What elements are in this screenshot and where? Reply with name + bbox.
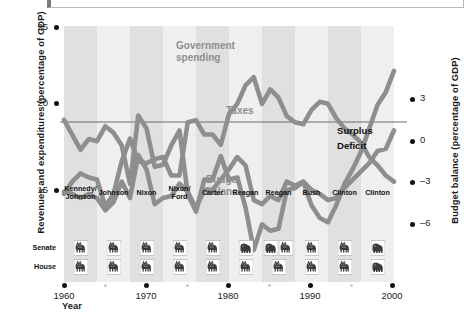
series-label-taxes: Taxes — [226, 105, 254, 117]
y-left-tick-label-15: 15 — [8, 184, 48, 195]
y-right-tick-label-3: 3 — [420, 92, 460, 103]
democrat-icon — [279, 240, 293, 256]
democrat-icon — [338, 240, 352, 256]
y-left-tick-dot-20 — [54, 101, 59, 106]
y-right-tick-dot-0 — [410, 139, 415, 144]
chamber-label-house: House — [12, 262, 56, 271]
democrat-icon — [74, 240, 88, 256]
x-tick-label-1960: 1960 — [41, 290, 87, 301]
x-tick-dot-1970 — [144, 283, 149, 288]
y-left-tick-dot-15 — [54, 188, 59, 193]
republican-icon — [371, 259, 385, 275]
democrat-icon — [305, 240, 319, 256]
x-tick-dot-1960 — [62, 283, 67, 288]
caption-box-fragment — [47, 0, 464, 8]
x-tick-label-2000: 2000 — [369, 290, 415, 301]
chamber-label-senate: Senate — [12, 243, 56, 252]
republican-icon — [239, 240, 253, 256]
x-tick-dot-1980 — [226, 283, 231, 288]
x-tick-dot-2000 — [390, 283, 395, 288]
y-right-tick-label-neg3: –3 — [420, 175, 460, 186]
democrat-icon — [272, 259, 286, 275]
x-tick-dot-1965 — [104, 284, 107, 287]
democrat-icon — [206, 259, 220, 275]
deficit-label: Deficit — [337, 140, 366, 151]
budget-chart-figure: Revenues and expenditures (percentage of… — [0, 0, 464, 325]
x-tick-dot-1990 — [308, 283, 313, 288]
y-right-tick-label-neg6: –6 — [420, 217, 460, 228]
x-tick-label-1970: 1970 — [123, 290, 169, 301]
x-axis-title: Year — [62, 300, 82, 311]
x-tick-dot-1995 — [350, 284, 353, 287]
democrat-icon — [173, 259, 187, 275]
x-tick-dot-1985 — [268, 284, 271, 287]
democrat-icon — [107, 240, 121, 256]
x-tick-label-1980: 1980 — [205, 290, 251, 301]
democrat-icon — [173, 240, 187, 256]
y-left-tick-dot-25 — [54, 25, 59, 30]
y-right-tick-dot-3 — [410, 97, 415, 102]
line-budget-balance — [64, 71, 394, 250]
democrat-icon — [140, 259, 154, 275]
democrat-icon — [74, 259, 88, 275]
democrat-icon — [206, 240, 220, 256]
y-axis-left-title: Revenues and expenditures (percentage of… — [35, 14, 46, 234]
y-right-tick-label-0: 0 — [420, 134, 460, 145]
surplus-label: Surplus — [337, 125, 373, 136]
presidency-label-9: Clinton — [358, 189, 397, 197]
x-tick-label-1990: 1990 — [287, 290, 333, 301]
democrat-icon — [239, 259, 253, 275]
republican-icon — [264, 240, 278, 256]
democrat-icon — [140, 240, 154, 256]
democrat-icon — [338, 259, 352, 275]
series-label-government-spending: Government spending — [176, 40, 235, 63]
democrat-icon — [305, 259, 319, 275]
y-right-tick-dot-neg6 — [410, 222, 415, 227]
y-right-tick-dot-neg3 — [410, 180, 415, 185]
y-left-tick-label-25: 25 — [8, 21, 48, 32]
y-left-tick-label-20: 20 — [8, 97, 48, 108]
democrat-icon — [107, 259, 121, 275]
republican-icon — [371, 240, 385, 256]
x-tick-dot-1975 — [186, 284, 189, 287]
